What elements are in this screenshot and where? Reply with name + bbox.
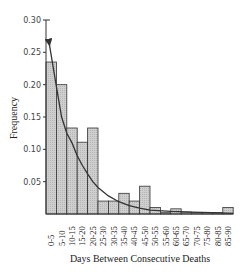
bar-30-35 (108, 201, 118, 214)
bar-25-30 (98, 201, 108, 214)
y-tick-label: 0.25 (23, 48, 41, 57)
x-axis-title: Days Between Consecutive Deaths (70, 253, 210, 264)
y-tick-label: 0.20 (23, 81, 41, 90)
x-category-label: 0-5 (46, 235, 56, 246)
bar-15-20 (77, 142, 87, 214)
x-category-label: 30-35 (109, 226, 119, 246)
x-category-label: 80-85 (213, 226, 223, 246)
x-category-label: 70-75 (192, 226, 202, 246)
x-category-label: 55-60 (161, 226, 171, 246)
x-category-label: 45-50 (140, 226, 150, 246)
x-category-label: 20-25 (88, 226, 98, 246)
bars-group (46, 62, 233, 214)
x-category-label: 15-20 (77, 226, 87, 246)
bar-5-10 (56, 85, 66, 214)
y-tick-label: 0.30 (23, 16, 41, 25)
x-category-label: 35-40 (119, 226, 129, 246)
x-category-label: 25-30 (98, 226, 108, 246)
x-category-label: 40-45 (129, 226, 139, 246)
y-ticks-group: 0.050.100.150.200.250.30 (23, 16, 46, 187)
bar-10-15 (67, 128, 77, 214)
x-category-label: 75-80 (202, 226, 212, 246)
x-category-label: 5-10 (57, 230, 67, 246)
y-tick-label: 0.05 (23, 178, 41, 187)
x-category-label: 50-55 (150, 226, 160, 246)
y-tick-label: 0.15 (23, 113, 41, 122)
x-category-label: 85-90 (223, 226, 233, 246)
bar-0-5 (46, 62, 56, 214)
x-category-label: 10-15 (67, 226, 77, 246)
x-category-label: 60-65 (171, 226, 181, 246)
y-axis-title: Frequency (8, 97, 19, 139)
x-category-label: 65-70 (181, 226, 191, 246)
histogram-chart: 0.050.100.150.200.250.30 0-55-1010-1515-… (0, 0, 249, 272)
x-category-labels: 0-55-1010-1515-2020-2525-3030-3535-4040-… (46, 226, 233, 246)
bar-20-25 (88, 128, 98, 214)
y-tick-label: 0.10 (23, 145, 41, 154)
